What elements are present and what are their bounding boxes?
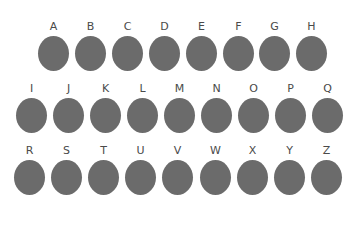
circle-button-d[interactable] [149, 36, 180, 71]
letter-item-i[interactable]: I [16, 83, 47, 143]
letter-label: F [223, 21, 254, 33]
letter-item-s[interactable]: S [51, 145, 82, 205]
circle-button-p[interactable] [275, 98, 306, 133]
circle-button-u[interactable] [125, 160, 156, 195]
letter-label: D [149, 21, 180, 33]
circle-button-q[interactable] [312, 98, 343, 133]
letter-label: M [164, 83, 195, 95]
circle-button-o[interactable] [238, 98, 269, 133]
letter-item-l[interactable]: L [127, 83, 158, 143]
circle-button-m[interactable] [164, 98, 195, 133]
letter-item-c[interactable]: C [112, 21, 143, 81]
letter-item-x[interactable]: X [237, 145, 268, 205]
letter-label: J [53, 83, 84, 95]
circle-button-t[interactable] [88, 160, 119, 195]
letter-label: L [127, 83, 158, 95]
circle-button-x[interactable] [237, 160, 268, 195]
circle-button-k[interactable] [90, 98, 121, 133]
letter-label: W [200, 145, 231, 157]
letter-item-f[interactable]: F [223, 21, 254, 81]
letter-item-j[interactable]: J [53, 83, 84, 143]
letter-label: O [238, 83, 269, 95]
letter-item-k[interactable]: K [90, 83, 121, 143]
letter-label: T [88, 145, 119, 157]
circle-button-z[interactable] [311, 160, 342, 195]
letter-label: X [237, 145, 268, 157]
letter-label: N [201, 83, 232, 95]
circle-button-n[interactable] [201, 98, 232, 133]
letter-item-y[interactable]: Y [274, 145, 305, 205]
letter-label: Y [274, 145, 305, 157]
circle-button-r[interactable] [14, 160, 45, 195]
letter-label: V [162, 145, 193, 157]
letter-item-g[interactable]: G [259, 21, 290, 81]
circle-button-c[interactable] [112, 36, 143, 71]
letter-item-t[interactable]: T [88, 145, 119, 205]
letter-label: Z [311, 145, 342, 157]
letter-item-r[interactable]: R [14, 145, 45, 205]
letter-item-o[interactable]: O [238, 83, 269, 143]
letter-item-w[interactable]: W [200, 145, 231, 205]
letter-label: P [275, 83, 306, 95]
letter-row-1: ABCDEFGH [0, 21, 362, 81]
letter-label: Q [312, 83, 343, 95]
circle-button-w[interactable] [200, 160, 231, 195]
circle-button-s[interactable] [51, 160, 82, 195]
letter-row-2: IJKLMNOPQ [0, 83, 362, 143]
circle-button-l[interactable] [127, 98, 158, 133]
letter-item-m[interactable]: M [164, 83, 195, 143]
letter-label: A [38, 21, 69, 33]
circle-button-f[interactable] [223, 36, 254, 71]
letter-item-u[interactable]: U [125, 145, 156, 205]
letter-item-q[interactable]: Q [312, 83, 343, 143]
letter-item-e[interactable]: E [186, 21, 217, 81]
circle-button-g[interactable] [259, 36, 290, 71]
circle-button-e[interactable] [186, 36, 217, 71]
letter-label: K [90, 83, 121, 95]
circle-button-a[interactable] [38, 36, 69, 71]
circle-button-v[interactable] [162, 160, 193, 195]
circle-button-i[interactable] [16, 98, 47, 133]
circle-button-h[interactable] [296, 36, 327, 71]
letter-label: G [259, 21, 290, 33]
letter-label: H [296, 21, 327, 33]
letter-item-a[interactable]: A [38, 21, 69, 81]
letter-item-d[interactable]: D [149, 21, 180, 81]
letter-label: C [112, 21, 143, 33]
circle-button-y[interactable] [274, 160, 305, 195]
letter-label: R [14, 145, 45, 157]
letter-label: I [16, 83, 47, 95]
letter-item-h[interactable]: H [296, 21, 327, 81]
circle-button-j[interactable] [53, 98, 84, 133]
letter-item-v[interactable]: V [162, 145, 193, 205]
circle-button-b[interactable] [75, 36, 106, 71]
letter-item-z[interactable]: Z [311, 145, 342, 205]
letter-label: S [51, 145, 82, 157]
letter-label: B [75, 21, 106, 33]
letter-item-n[interactable]: N [201, 83, 232, 143]
letter-label: E [186, 21, 217, 33]
letter-item-p[interactable]: P [275, 83, 306, 143]
letter-item-b[interactable]: B [75, 21, 106, 81]
letter-label: U [125, 145, 156, 157]
letter-row-3: RSTUVWXYZ [0, 145, 362, 205]
